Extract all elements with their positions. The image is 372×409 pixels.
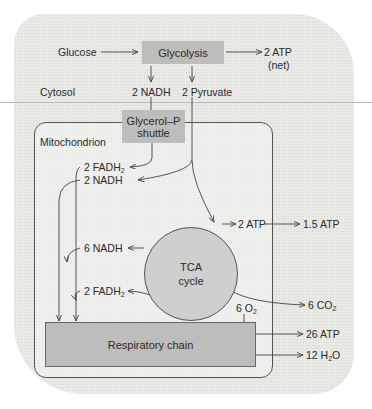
glucose-label: Glucose — [58, 46, 97, 58]
shuttle-label-line1: Glycerol–P — [127, 115, 181, 127]
tca-nadh-label: 6 NADH — [84, 242, 123, 254]
pdh-nadh-label: 2 NADH — [84, 174, 123, 186]
respiratory-atp-label: 26 ATP — [306, 328, 340, 340]
glycolysis-atp-label: 2 ATP — [264, 46, 292, 58]
cytosolic-nadh-label: 2 NADH — [132, 86, 171, 98]
tca-label-line1: TCA — [180, 261, 202, 273]
water-label: 12 H2O — [306, 349, 340, 365]
glycerol-phosphate-shuttle-box: Glycerol–P shuttle — [122, 110, 185, 143]
tca-atp-label: 2 ATP — [238, 218, 266, 230]
oxygen-label: 6 O2 — [236, 302, 257, 318]
converted-atp-label: 1.5 ATP — [303, 218, 340, 230]
tca-cycle-circle: TCAcycle — [144, 227, 238, 321]
pyruvate-label: 2 Pyruvate — [182, 86, 232, 98]
mitochondrion-label: Mitochondrion — [40, 136, 106, 148]
respiratory-chain-box: Respiratory chain — [45, 322, 256, 367]
tca-label-line2: cycle — [178, 275, 203, 287]
glycolysis-atp-net-note: (net) — [268, 59, 290, 71]
tca-fadh2-label: 2 FADH2 — [84, 285, 125, 301]
glycolysis-box: Glycolysis — [142, 41, 224, 64]
co2-label: 6 CO2 — [308, 299, 336, 315]
shuttle-label-line2: shuttle — [137, 127, 169, 139]
cytosol-label: Cytosol — [40, 86, 75, 98]
